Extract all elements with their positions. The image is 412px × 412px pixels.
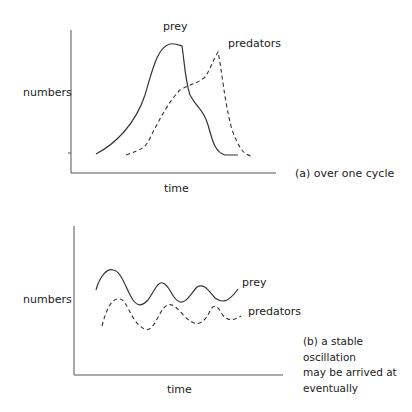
panel-b-predators-label: predators	[248, 305, 301, 318]
panel-a-x-label: time	[164, 182, 189, 195]
panel-a-caption: (a) over one cycle	[295, 167, 394, 180]
panel-a: numbers prey predators time (a) over one…	[23, 20, 394, 195]
panel-b-caption: (b) a stable oscillation may be arrived …	[303, 334, 412, 396]
panel-b-predators-curve	[102, 299, 241, 330]
panel-a-predators-curve	[126, 52, 251, 156]
panel-b: numbers prey predators time	[23, 226, 301, 396]
panel-a-predators-label: predators	[228, 37, 281, 50]
panel-a-y-label: numbers	[23, 86, 72, 99]
panel-b-prey-label: prey	[242, 276, 267, 289]
panel-b-caption-line-1: (b) a stable oscillation	[303, 334, 412, 365]
panel-b-caption-line-3: eventually	[303, 381, 412, 397]
panel-b-y-label: numbers	[23, 293, 72, 306]
panel-a-prey-curve	[96, 44, 238, 155]
panel-b-x-label: time	[167, 383, 192, 396]
panel-b-prey-curve	[96, 270, 238, 305]
panel-b-caption-line-2: may be arrived at	[303, 365, 412, 381]
panel-a-prey-label: prey	[163, 20, 188, 33]
